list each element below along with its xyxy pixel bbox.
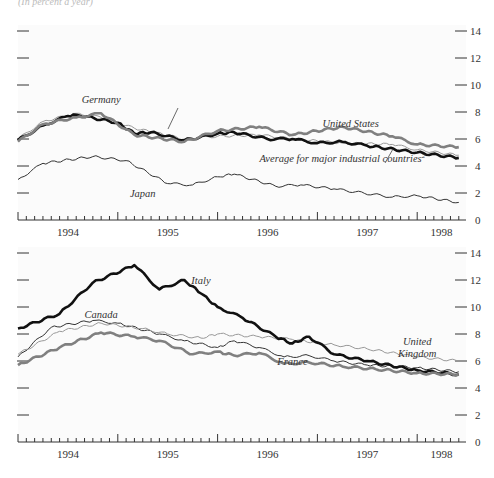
y-tick-label: 8: [475, 328, 481, 340]
x-tick-label: 1997: [356, 226, 379, 238]
series-label-united-kingdom: Kingdom: [397, 348, 437, 359]
x-tick-label: 1998: [431, 226, 454, 238]
x-tick-label: 1996: [257, 448, 280, 460]
chart-panel-top: 0246810121419941995199619971998GermanyUn…: [17, 25, 482, 238]
x-tick-label: 1998: [431, 448, 454, 460]
y-tick-label: 4: [475, 160, 481, 172]
y-tick-label: 8: [475, 106, 481, 118]
series-label-japan: Japan: [130, 188, 156, 199]
y-tick-label: 10: [470, 301, 482, 313]
series-label-france: France: [276, 356, 308, 367]
y-tick-label: 2: [475, 187, 481, 199]
y-tick-label: 14: [470, 247, 482, 259]
y-tick-label: 6: [475, 133, 481, 145]
y-tick-label: 12: [470, 274, 481, 286]
series-label-italy: Italy: [190, 275, 211, 286]
series-label-canada: Canada: [85, 309, 118, 320]
series-label-united-kingdom: United: [403, 336, 432, 347]
x-tick-label: 1997: [356, 448, 379, 460]
y-tick-label: 0: [475, 214, 481, 226]
series-label-united-states: United States: [323, 118, 379, 129]
y-tick-label: 6: [475, 355, 481, 367]
series-label-average-for-major-industrial-countries: Average for major industrial countries2: [259, 152, 426, 164]
x-tick-label: 1994: [57, 226, 80, 238]
x-tick-label: 1995: [157, 448, 180, 460]
y-tick-label: 0: [475, 436, 481, 448]
y-tick-label: 2: [475, 409, 481, 421]
x-tick-label: 1996: [257, 226, 280, 238]
y-tick-label: 12: [470, 52, 481, 64]
x-tick-label: 1995: [157, 226, 180, 238]
x-tick-label: 1994: [57, 448, 80, 460]
chart-panel-bottom: 0246810121419941995199619971998ItalyCana…: [17, 247, 482, 460]
y-tick-label: 4: [475, 382, 481, 394]
y-tick-label: 14: [470, 25, 482, 37]
series-label-germany: Germany: [82, 94, 121, 105]
chart-canvas: 0246810121419941995199619971998GermanyUn…: [0, 0, 494, 478]
y-tick-label: 10: [470, 79, 482, 91]
